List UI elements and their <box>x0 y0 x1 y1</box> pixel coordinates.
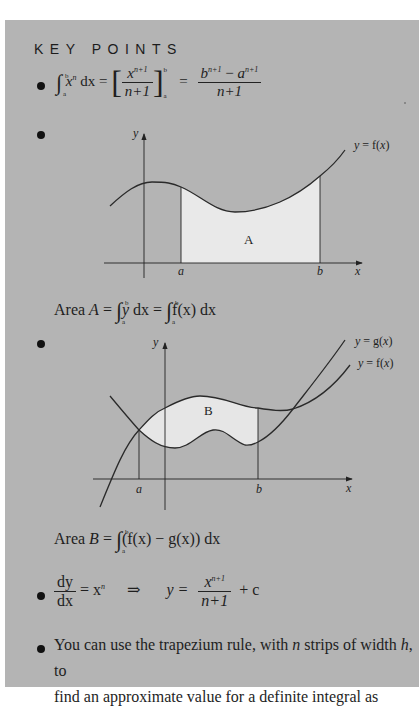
bullet-3 <box>37 340 45 348</box>
area-a-formula: Area A = ∫bay dx = ∫baf(x) dx <box>54 298 216 324</box>
bullet-4 <box>37 592 45 600</box>
x-axis-label-2: x <box>346 481 351 495</box>
b-label: b <box>317 264 323 278</box>
trapezium-rule-text: You can use the trapezium rule, with n s… <box>54 632 414 710</box>
region-a-label: A <box>244 232 253 248</box>
curve-f-label-2: y = f(x) <box>358 356 393 371</box>
a-label: a <box>178 264 184 278</box>
region-b-label: B <box>204 403 213 419</box>
b-label-2: b <box>256 482 262 496</box>
a-label-2: a <box>136 482 142 496</box>
implies-arrow: ⇒ <box>127 581 140 598</box>
x-axis-label: x <box>355 264 360 278</box>
bullet-5 <box>37 645 45 653</box>
differential-equation: dydx = xn ⇒ y = xn+1n+1 + c <box>54 573 259 610</box>
curve-g-label: y = g(x) <box>355 334 392 349</box>
y-axis-label: y <box>133 126 138 140</box>
curve-f-label: y = f(x) <box>354 138 389 153</box>
region-b <box>139 396 258 448</box>
area-b-formula: Area B = ∫ba(f(x) − g(x)) dx <box>54 527 220 553</box>
region-a <box>181 176 320 263</box>
y-axis-label-2: y <box>153 335 158 349</box>
